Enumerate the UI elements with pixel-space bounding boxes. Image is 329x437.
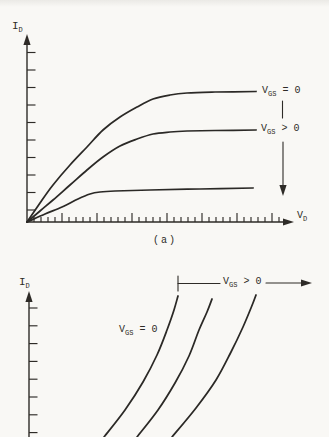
panel-a-y-axis-arrowhead-icon	[23, 34, 30, 45]
panel-b-axes	[25, 291, 37, 437]
panel-b-label-vgs-greater-0: VGS > 0	[223, 276, 261, 288]
panel-a-vgs-direction-arrow	[279, 101, 286, 196]
range-right-arrowhead-icon	[301, 279, 312, 286]
curve-b-vgs-equals-0	[104, 296, 178, 437]
label-value: > 0	[275, 123, 299, 134]
panel-a-x-ticks	[34, 213, 279, 222]
label-value: = 0	[276, 85, 300, 96]
panel-a-x-label-subscript: D	[303, 215, 307, 223]
panel-b-curves	[104, 295, 256, 437]
curve-a-vgs-equals-0	[27, 92, 256, 223]
panel-a-caption: (a)	[153, 235, 177, 247]
panel-b-y-label-symbol: I	[19, 276, 26, 288]
vgs-down-arrowhead-icon	[279, 185, 286, 196]
panel-a-label-vgs-greater-0: VGS > 0	[261, 123, 299, 135]
curve-b-vgs-greater-0-first	[137, 299, 212, 437]
figure-canvas	[0, 0, 329, 437]
figure-page: ID VD VGS = 0 VGS > 0 (a) ID VGS > 0 VGS…	[0, 0, 329, 437]
panel-b-y-axis-label: ID	[19, 276, 30, 288]
panel-b-y-axis-arrowhead-icon	[25, 291, 32, 302]
panel-b-label-vgs-equals-0: VGS = 0	[119, 324, 157, 336]
panel-a-x-axis-arrowhead-icon	[283, 218, 294, 225]
panel-a-x-axis-label: VD	[297, 210, 307, 222]
panel-a-y-label-symbol: I	[12, 20, 19, 32]
panel-a-y-axis-label: ID	[12, 20, 23, 32]
label-value: = 0	[133, 324, 157, 335]
panel-a-y-ticks	[27, 53, 36, 211]
panel-a-curves	[27, 92, 256, 223]
panel-a-y-label-subscript: D	[19, 26, 23, 34]
label-value: > 0	[237, 276, 261, 287]
panel-b-y-ticks	[29, 308, 38, 433]
panel-b-y-label-subscript: D	[26, 282, 30, 290]
panel-a-label-vgs-equals-0: VGS = 0	[262, 85, 300, 97]
